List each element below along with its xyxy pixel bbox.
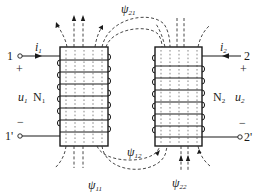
coil-1 [18,47,111,146]
flux-arrow-icon [99,25,104,30]
flux-psi12-label: ψ12 [127,145,142,160]
voltage-1-label: u1 [18,90,28,105]
coil-2 [152,47,242,146]
flux-arrows [56,15,202,161]
coil-2-internal-flux [161,50,197,144]
flux-arrow-icon [197,149,202,154]
flux-arrow-icon [155,150,160,156]
core-2 [155,47,202,146]
voltage-2-label: u2 [235,90,245,105]
flux-psi11-label: ψ11 [88,178,102,193]
flux-psi21-label: ψ21 [121,2,135,17]
coil-2-minus: − [239,116,246,130]
flux-arrow-icon [72,15,76,21]
flux-arrow-icon [56,22,61,28]
coupled-inductor-diagram: 1 1' + − i1 u1 N1 2 2' + − i2 u2 N2 ψ21 … [0,0,259,193]
current-2-label: i2 [220,40,227,55]
flux-arrow-icon [179,155,183,161]
turns-1-label: N1 [33,90,46,105]
current-1-label: i1 [35,40,42,55]
terminal-1-prime-label: 1' [5,129,13,143]
coil-1-internal-flux [66,50,102,144]
terminal-2-prime-label: 2' [244,130,252,144]
coil-1-plus: + [16,62,23,76]
coil-2-plus: + [240,62,247,76]
coil-1-minus: − [17,115,24,129]
turns-2-label: N2 [213,90,226,105]
terminal-1-label: 1 [7,49,13,63]
flux-psi22-label: ψ22 [172,176,187,191]
terminal-2-prime [238,135,242,139]
terminal-1 [18,54,22,58]
flux-arrow-icon [186,155,190,161]
flux-arrow-icon [81,15,85,21]
terminal-2-label: 2 [244,49,250,63]
terminal-1-prime [18,134,22,138]
